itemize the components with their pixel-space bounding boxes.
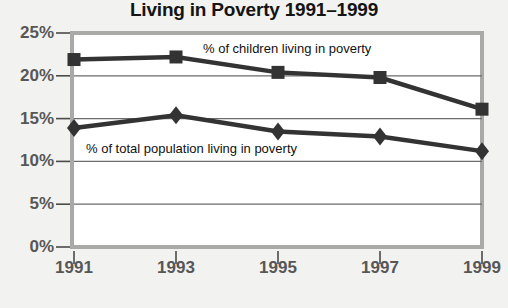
poverty-line-chart: Living in Poverty 1991–1999 0%5%10%15%20… xyxy=(0,0,508,308)
data-point-marker-square xyxy=(374,71,387,84)
data-point-marker-square xyxy=(272,66,285,79)
data-point-marker-diamond xyxy=(475,142,489,160)
x-axis-tick-label: 1991 xyxy=(55,258,93,278)
data-point-marker-square xyxy=(170,50,183,63)
annotation-children-series: % of children living in poverty xyxy=(203,41,371,56)
data-point-marker-diamond xyxy=(373,128,387,146)
x-axis-tick-label: 1993 xyxy=(157,258,195,278)
data-point-marker-diamond xyxy=(169,106,183,124)
x-axis-tick-label: 1995 xyxy=(259,258,297,278)
data-point-marker-square xyxy=(476,103,489,116)
series-line-1 xyxy=(74,57,482,109)
data-point-marker-diamond xyxy=(67,119,81,137)
x-axis-tick-label: 1999 xyxy=(463,258,501,278)
data-point-marker-diamond xyxy=(271,122,285,140)
data-point-marker-square xyxy=(68,53,81,66)
annotation-total-population-series: % of total population living in poverty xyxy=(86,141,297,156)
x-axis-tick-label: 1997 xyxy=(361,258,399,278)
